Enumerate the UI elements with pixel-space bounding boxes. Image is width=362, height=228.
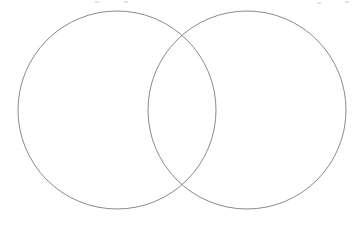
- region-right-only[interactable]: [247, 68, 331, 152]
- region-intersection[interactable]: [152, 80, 212, 140]
- venn-diagram-page: [0, 0, 362, 228]
- venn-diagram-canvas: [0, 0, 362, 228]
- region-left-only[interactable]: [33, 68, 117, 152]
